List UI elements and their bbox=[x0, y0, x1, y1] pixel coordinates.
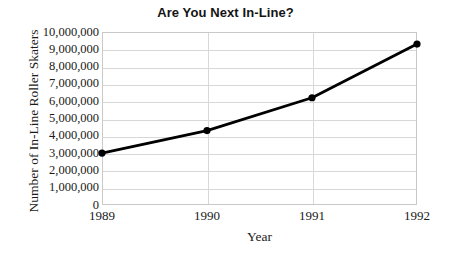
x-axis-tick-labels: 1989199019911992 bbox=[0, 0, 451, 257]
x-axis-tick-label: 1992 bbox=[387, 208, 447, 223]
x-axis-tick-label: 1991 bbox=[282, 208, 342, 223]
chart-figure: Are You Next In-Line? Number of In-Line … bbox=[0, 0, 451, 257]
x-axis-tick-label: 1989 bbox=[72, 208, 132, 223]
x-axis-title: Year bbox=[102, 229, 417, 245]
x-axis-tick-label: 1990 bbox=[177, 208, 237, 223]
